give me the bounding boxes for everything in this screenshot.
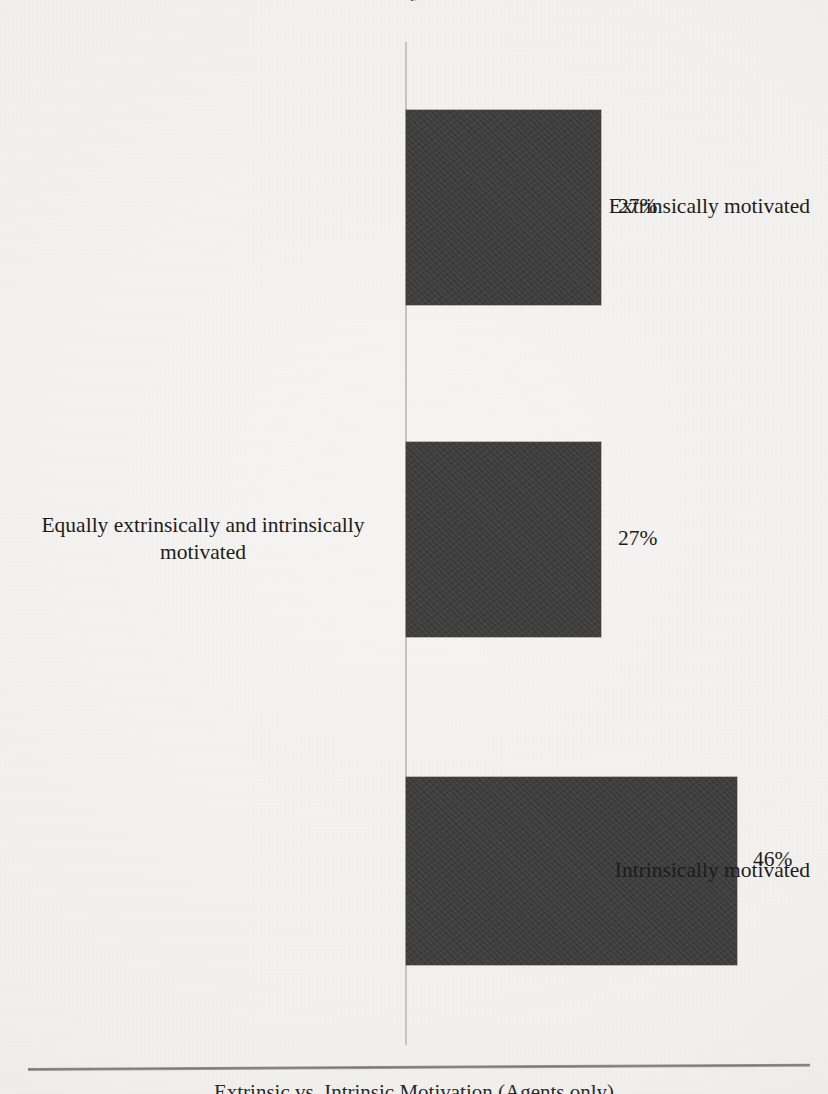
figure-page: g Extrinsically motivated 27% Equally ex… — [0, 0, 828, 1094]
cropped-title-text: g — [0, 0, 828, 1]
category-label-intrinsically-motivated: Intrinsically motivated — [0, 857, 828, 884]
category-label-extrinsically-motivated: Extrinsically motivated — [0, 193, 828, 220]
figure-caption: Extrinsic vs. Intrinsic Motivation (Agen… — [0, 1079, 828, 1094]
footer-divider-rule — [28, 1064, 810, 1071]
value-label-equally-motivated: 27% — [618, 526, 657, 550]
category-label-line: motivated — [0, 539, 406, 566]
value-label-extrinsically-motivated: 27% — [618, 194, 657, 218]
category-label-line: Equally extrinsically and intrinsically — [0, 512, 406, 539]
bar-equally-extrinsically-and-intrinsically-motivated — [406, 442, 601, 637]
value-label-intrinsically-motivated: 46% — [753, 847, 792, 871]
category-label-equally-motivated: Equally extrinsically and intrinsically … — [0, 512, 406, 566]
